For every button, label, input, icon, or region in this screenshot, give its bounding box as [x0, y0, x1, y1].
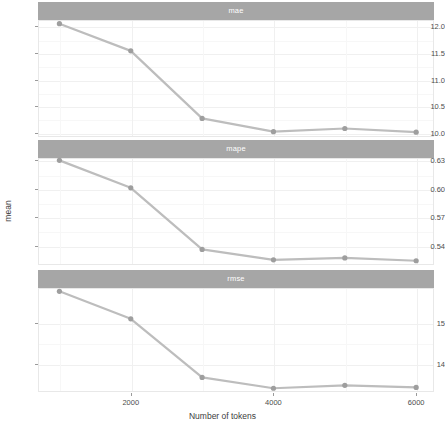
- xtick-mark-2: [416, 393, 417, 396]
- data-point-rmse-3000: [200, 375, 205, 380]
- data-point-rmse-6000: [414, 385, 419, 390]
- xtick-label-0: 2000: [122, 398, 139, 407]
- xtick-label-1: 4000: [265, 398, 282, 407]
- faceted-line-chart: 10.010.511.011.512.0mae0.540.570.600.63m…: [0, 0, 445, 423]
- series-line-rmse: [59, 291, 416, 388]
- data-point-rmse-2000: [128, 316, 133, 321]
- xtick-label-2: 6000: [408, 398, 425, 407]
- xtick-mark-0: [131, 393, 132, 396]
- data-point-rmse-5000: [342, 383, 347, 388]
- x-axis-title: Number of tokens: [0, 411, 445, 421]
- series-layer-rmse: [0, 0, 445, 423]
- y-axis-title: mean: [3, 191, 13, 231]
- xtick-mark-1: [273, 393, 274, 396]
- data-point-rmse-1000: [57, 289, 62, 294]
- data-point-rmse-4000: [271, 386, 276, 391]
